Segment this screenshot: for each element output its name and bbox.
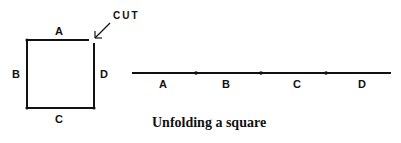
caption: Unfolding a square <box>152 115 266 130</box>
unfolded-line: A B C D <box>132 71 391 90</box>
line-label-b: B <box>222 78 230 90</box>
unfolding-diagram: A B C D CUT A B C D Unfolding a square <box>0 0 401 143</box>
square-label-left: B <box>12 68 20 80</box>
line-label-d: D <box>358 78 366 90</box>
line-point <box>324 71 328 75</box>
line-point <box>259 71 263 75</box>
cut-arrow-icon <box>95 23 110 38</box>
line-point <box>194 71 198 75</box>
square-label-bottom: C <box>55 113 63 125</box>
cut-label: CUT <box>113 10 140 21</box>
line-label-a: A <box>159 78 167 90</box>
square-label-right: D <box>100 68 108 80</box>
line-label-c: C <box>293 78 301 90</box>
square-label-top: A <box>55 25 63 37</box>
square-figure: A B C D CUT <box>12 10 140 125</box>
